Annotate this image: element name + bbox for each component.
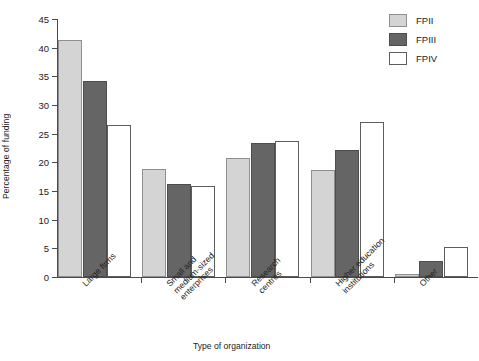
y-axis-tick-label: 5 [44, 243, 49, 254]
x-axis-separator [310, 277, 311, 283]
y-axis-tick-label: 45 [38, 14, 49, 25]
legend-item-fpiv: FPIV [389, 49, 475, 68]
y-axis-tick: 25 [52, 134, 57, 135]
bar-fpiv-3 [275, 141, 299, 277]
bar-fpii-2 [142, 169, 166, 277]
x-axis-separator [394, 277, 395, 283]
bar-chart: Percentage of funding 051015202530354045… [0, 0, 479, 361]
bar-fpiii-3 [251, 143, 275, 277]
y-axis-tick: 40 [52, 48, 57, 49]
legend-item-fpiii: FPIII [389, 30, 475, 49]
y-axis-title: Percentage of funding [1, 96, 17, 216]
x-axis-title: Type of organization [193, 341, 270, 351]
y-axis-tick-label: 30 [38, 100, 49, 111]
bar-fpii-1 [58, 40, 82, 277]
y-axis-tick: 15 [52, 191, 57, 192]
y-axis-tick-label: 10 [38, 214, 49, 225]
bar-fpiv-5 [444, 247, 468, 277]
legend-label: FPIV [416, 53, 437, 64]
y-axis-tick: 5 [52, 248, 57, 249]
legend-label: FPIII [416, 34, 436, 45]
legend-swatch [389, 52, 407, 65]
y-axis-tick-label: 20 [38, 157, 49, 168]
y-axis-tick-label: 15 [38, 186, 49, 197]
y-axis-tick: 45 [52, 19, 57, 20]
y-axis-tick-label: 25 [38, 128, 49, 139]
y-axis-tick-label: 0 [44, 272, 49, 283]
y-axis-tick-label: 40 [38, 42, 49, 53]
y-axis-tick: 0 [52, 277, 57, 278]
x-axis-separator [141, 277, 142, 283]
y-axis-tick: 20 [52, 162, 57, 163]
legend-swatch [389, 14, 407, 27]
bar-fpiii-1 [83, 81, 107, 277]
x-axis-separator [225, 277, 226, 283]
legend-label: FPII [416, 15, 433, 26]
legend: FPIIFPIIIFPIV [389, 11, 475, 68]
y-axis-tick-label: 35 [38, 71, 49, 82]
y-axis-tick: 30 [52, 105, 57, 106]
y-axis-tick: 35 [52, 76, 57, 77]
bar-fpii-4 [311, 170, 335, 277]
bar-fpii-5 [395, 274, 419, 277]
legend-item-fpii: FPII [389, 11, 475, 30]
y-axis-tick: 10 [52, 220, 57, 221]
bar-fpii-3 [226, 158, 250, 277]
legend-swatch [389, 33, 407, 46]
